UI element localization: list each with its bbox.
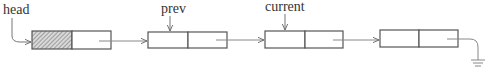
head-pointer-arrow — [12, 18, 31, 42]
head-label: head — [3, 2, 29, 17]
node-2 — [265, 31, 343, 48]
node-0-data-field — [32, 31, 72, 49]
linked-list-diagram: head prev current — [0, 0, 492, 70]
node-1-data-field — [148, 32, 188, 48]
node-0-next-field — [72, 31, 111, 49]
node-3-data-field — [380, 30, 419, 47]
node-3 — [380, 30, 458, 47]
current-label: current — [265, 0, 305, 14]
node-2-data-field — [265, 31, 305, 48]
prev-label: prev — [161, 1, 186, 16]
node-1 — [148, 32, 227, 48]
node-0 — [32, 31, 111, 49]
ground-null-icon — [471, 60, 485, 66]
